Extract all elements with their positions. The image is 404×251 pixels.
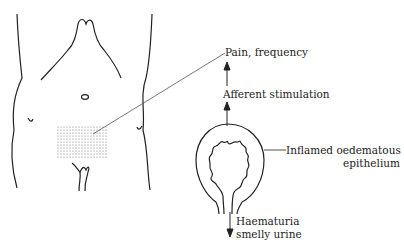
pain-leader-line [93, 53, 225, 134]
afferent-stimulation-label: Afferent stimulation [223, 88, 330, 100]
epithelium-label-line2: epithelium [286, 157, 400, 169]
torso-outline [12, 14, 152, 191]
pain-frequency-label: Pain, frequency [225, 46, 308, 58]
epithelium-label-line1: Inflamed oedematous [286, 144, 400, 156]
smelly-urine-label: smelly urine [236, 228, 302, 240]
diagram-drawing [0, 0, 404, 251]
haematuria-label: Haematuria [236, 215, 299, 227]
pain-region-shading [56, 126, 107, 158]
cystitis-diagram: Pain, frequency Afferent stimulation Inf… [0, 0, 404, 251]
bladder-illustration [196, 124, 264, 214]
